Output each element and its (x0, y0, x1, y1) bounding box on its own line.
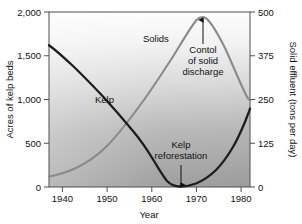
kelp-series-label: Kelp (95, 94, 114, 105)
control-of-solid-discharge-line-2: of solid (188, 55, 218, 66)
left-tick-label-1500: 1,500 (17, 50, 41, 61)
x-tick-label-1970: 1970 (186, 193, 207, 204)
x-axis-tick-labels: 1940 1950 1960 1970 1980 (52, 193, 252, 204)
y-axis-title: Acres of kelp beds (4, 60, 15, 138)
left-tick-label-500: 500 (25, 138, 41, 149)
x-tick-label-1960: 1960 (141, 193, 162, 204)
solids-series-label: Solids (143, 33, 169, 44)
right-tick-label-250: 250 (258, 94, 274, 105)
x-axis (62, 187, 241, 192)
left-tick-label-0: 0 (36, 182, 41, 193)
x-tick-label-1980: 1980 (231, 193, 252, 204)
right-axis-tick-labels: 500 375 250 125 0 (258, 7, 274, 193)
kelp-reforestation-line-2: reforestation (155, 150, 208, 161)
x-tick-label-1940: 1940 (52, 193, 73, 204)
control-of-solid-discharge-line-3: discharge (182, 66, 223, 77)
chart-svg: 2,000 1,500 1,000 500 0 500 375 250 125 … (0, 0, 302, 224)
left-tick-label-2000: 2,000 (17, 7, 41, 18)
left-axis-tick-labels: 2,000 1,500 1,000 500 0 (17, 7, 41, 193)
kelp-reforestation-line-1: Kelp (171, 139, 190, 150)
right-tick-label-500: 500 (258, 7, 274, 18)
right-tick-label-125: 125 (258, 138, 274, 149)
right-axis (250, 12, 255, 187)
kelp-solids-chart-figure: 2,000 1,500 1,000 500 0 500 375 250 125 … (0, 0, 302, 224)
right-tick-label-0: 0 (258, 182, 263, 193)
y2-axis-title: Solid effluent (tons per day) (288, 41, 299, 157)
left-tick-label-1000: 1,000 (17, 94, 41, 105)
right-tick-label-375: 375 (258, 50, 274, 61)
x-tick-label-1950: 1950 (97, 193, 118, 204)
left-axis (44, 12, 49, 187)
control-of-solid-discharge-line-1: Contol (189, 44, 216, 55)
x-axis-title: Year (139, 209, 158, 220)
